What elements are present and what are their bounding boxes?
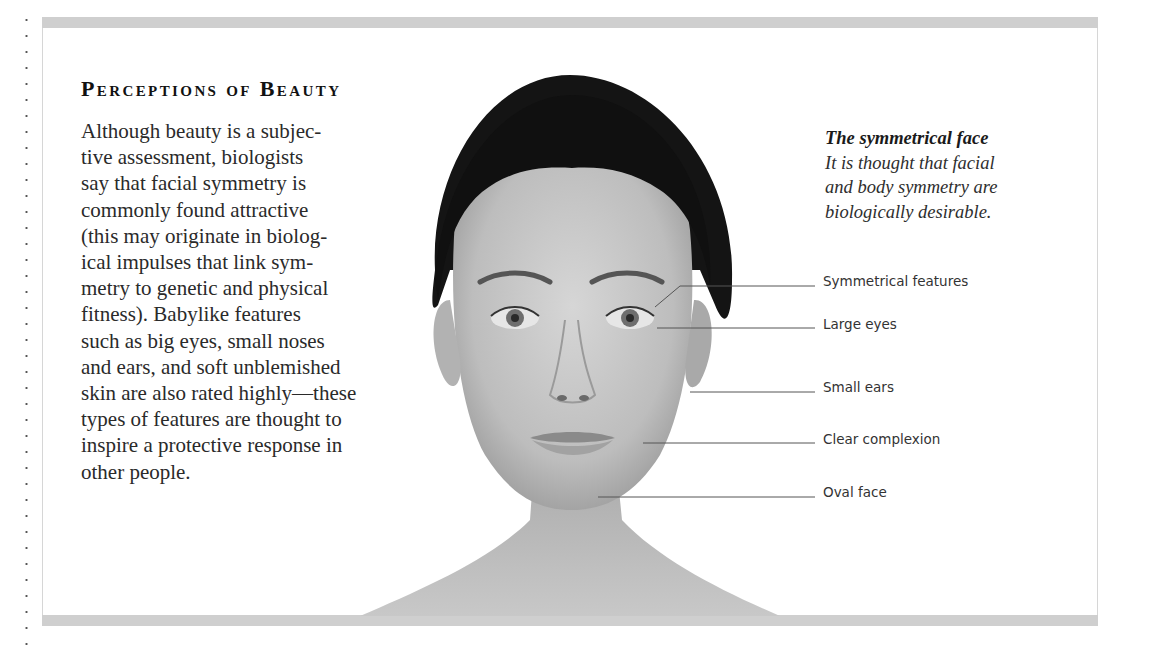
label-small-ears: Small ears [823, 379, 894, 395]
body-line: (this may originate in biolog- [81, 223, 441, 249]
section-title: Perceptions of Beauty [81, 76, 341, 102]
caption-line: and body symmetry are [825, 175, 997, 200]
body-line: types of features are thought to [81, 406, 441, 432]
body-line: skin are also rated highly—these [81, 380, 441, 406]
label-clear-complexion: Clear complexion [823, 431, 940, 447]
image-caption: The symmetrical face It is thought that … [825, 126, 997, 224]
body-line: other people. [81, 459, 441, 485]
caption-line: It is thought that facial [825, 151, 997, 176]
label-oval-face: Oval face [823, 484, 887, 500]
body-line: say that facial symmetry is [81, 170, 441, 196]
body-line: such as big eyes, small noses [81, 328, 441, 354]
body-paragraph: Although beauty is a subjec- tive assess… [81, 118, 441, 485]
body-line: tive assessment, biologists [81, 144, 441, 170]
body-line: metry to genetic and physical [81, 275, 441, 301]
body-line: fitness). Babylike features [81, 301, 441, 327]
label-symmetrical-features: Symmetrical features [823, 273, 968, 289]
caption-title: The symmetrical face [825, 126, 997, 151]
body-line: and ears, and soft unblemished [81, 354, 441, 380]
body-line: ical impulses that link sym- [81, 249, 441, 275]
caption-line: biologically desirable. [825, 200, 997, 225]
body-line: Although beauty is a subjec- [81, 118, 441, 144]
body-line: inspire a protective response in [81, 432, 441, 458]
leader-symmetrical-features [655, 286, 815, 307]
body-line: commonly found attractive [81, 197, 441, 223]
label-large-eyes: Large eyes [823, 316, 897, 332]
